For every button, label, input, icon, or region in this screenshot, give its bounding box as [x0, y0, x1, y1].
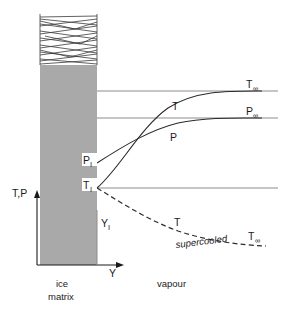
svg-text:∞: ∞: [253, 84, 258, 93]
svg-text:P: P: [83, 154, 90, 166]
vertical-axis-arrowhead: [34, 190, 40, 198]
svg-text:P: P: [170, 131, 177, 143]
pressure-curve-label: P: [170, 131, 177, 143]
svg-text:T: T: [248, 230, 255, 242]
vapour-region-label: vapour: [157, 278, 186, 289]
horizontal-axis-label: Y: [109, 267, 116, 279]
interface-position-label: Y I: [101, 217, 110, 232]
supercooled-annotation: supercooled: [175, 233, 228, 250]
horizontal-axis-arrowhead: [116, 262, 124, 268]
svg-text:Y: Y: [101, 217, 108, 229]
supercooled-temperature-label: T: [174, 216, 181, 228]
svg-text:∞: ∞: [253, 111, 258, 120]
svg-text:T: T: [172, 100, 179, 112]
temperature-curve-label: T: [172, 100, 179, 112]
supercooled-infinity-label: T ∞: [248, 230, 260, 245]
svg-text:∞: ∞: [255, 236, 260, 245]
svg-text:I: I: [90, 160, 92, 169]
svg-text:ice: ice: [56, 278, 68, 289]
svg-text:T: T: [174, 216, 181, 228]
svg-text:P: P: [246, 105, 253, 117]
svg-text:I: I: [108, 223, 110, 232]
ice-matrix-region-label: ice matrix: [48, 278, 74, 302]
diagram-root: T,P Y Y I P I T I T P T ∞ P: [0, 0, 282, 315]
svg-text:T: T: [83, 179, 90, 191]
ice-matrix-vapour-diagram: T,P Y Y I P I T I T P T ∞ P: [0, 0, 282, 315]
svg-text:T: T: [246, 78, 253, 90]
temperature-curve: [97, 91, 262, 188]
porous-hatch-region: [40, 14, 97, 65]
vertical-axis-label: T,P: [12, 187, 27, 199]
pressure-curve: [97, 118, 262, 163]
svg-text:I: I: [90, 185, 92, 194]
svg-text:matrix: matrix: [48, 291, 74, 302]
